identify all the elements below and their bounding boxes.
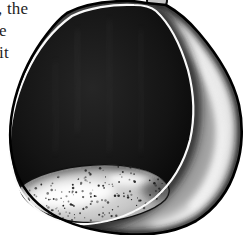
speckle-dot xyxy=(134,180,136,182)
speckle-dot xyxy=(69,212,71,214)
speckle-dot xyxy=(57,177,58,178)
speckle-dot xyxy=(157,178,159,180)
speckle-dot xyxy=(82,208,84,210)
speckle-dot xyxy=(29,190,31,192)
speckle-dot xyxy=(155,190,157,192)
speckle-dot xyxy=(48,199,50,201)
speckle-dot xyxy=(98,214,100,216)
speckle-dot xyxy=(109,212,110,213)
speckle-dot xyxy=(69,191,71,193)
speckle-dot xyxy=(84,179,86,181)
speckle-dot xyxy=(50,189,53,192)
speckle-dot xyxy=(114,195,117,198)
speckle-dot xyxy=(65,211,66,212)
speckle-dot xyxy=(52,182,54,184)
speckle-dot xyxy=(149,179,151,181)
speckle-dot xyxy=(35,187,37,189)
speckle-dot xyxy=(75,191,77,193)
speckle-dot xyxy=(62,205,64,207)
speckle-dot xyxy=(110,215,112,217)
speckle-dot xyxy=(112,209,113,210)
speckle-dot xyxy=(130,172,132,174)
speckle-dot xyxy=(116,193,117,194)
cavity-stroke xyxy=(108,20,111,152)
speckle-dot xyxy=(129,190,131,192)
speckle-dot xyxy=(64,208,65,209)
speckle-dot xyxy=(107,201,109,203)
speckle-dot xyxy=(71,219,73,221)
speckle-dot xyxy=(85,169,87,171)
speckle-dot xyxy=(129,179,131,181)
speckle-dot xyxy=(90,196,92,198)
speckle-dot xyxy=(103,187,105,189)
speckle-dot xyxy=(112,183,114,185)
speckle-dot xyxy=(153,182,155,184)
speckle-dot xyxy=(104,214,105,215)
speckle-dot xyxy=(36,196,38,198)
speckle-dot xyxy=(47,206,50,209)
speckle-dot xyxy=(50,199,51,200)
speckle-dot xyxy=(158,187,160,189)
cavity-stroke xyxy=(140,30,143,152)
speckle-dot xyxy=(50,185,52,187)
speckle-dot xyxy=(127,196,129,198)
speckle-dot xyxy=(85,206,87,208)
speckle-dot xyxy=(56,207,57,208)
speckle-dot xyxy=(80,184,82,186)
speckle-dot xyxy=(90,203,92,205)
speckle-dot xyxy=(82,196,84,198)
speckle-dot xyxy=(67,215,68,216)
speckle-dot xyxy=(122,171,124,173)
speckle-dot xyxy=(102,185,104,187)
cavity-stroke xyxy=(76,30,79,132)
speckle-dot xyxy=(136,205,137,206)
speckle-dot xyxy=(59,213,61,215)
speckle-dot xyxy=(130,194,132,196)
speckle-dot xyxy=(71,192,72,193)
speckle-dot xyxy=(85,176,87,178)
speckle-dot xyxy=(73,205,75,207)
speckle-dot xyxy=(99,167,101,169)
speckle-dot xyxy=(90,219,92,221)
speckle-dot xyxy=(101,199,103,201)
speckle-dot xyxy=(161,183,162,184)
speckle-dot xyxy=(81,190,83,192)
speckle-dot xyxy=(55,208,56,209)
speckle-dot xyxy=(72,184,74,186)
speckle-dot xyxy=(90,200,92,202)
speckle-dot xyxy=(131,199,132,200)
speckle-dot xyxy=(46,205,47,206)
speckle-dot xyxy=(112,186,114,188)
speckle-dot xyxy=(102,212,104,214)
speckle-dot xyxy=(89,182,91,184)
speckle-dot xyxy=(72,187,75,190)
speckle-dot xyxy=(104,199,106,201)
speckle-dot xyxy=(94,195,96,197)
speckle-dot xyxy=(102,207,103,208)
speckle-dot xyxy=(65,195,67,197)
speckle-dot xyxy=(46,192,49,195)
speckle-dot xyxy=(86,181,87,182)
speckle-dot xyxy=(120,174,121,175)
speckle-dot xyxy=(68,201,70,203)
speckle-dot xyxy=(121,176,122,177)
speckle-dot xyxy=(89,192,92,195)
speckle-dot xyxy=(137,197,138,198)
speckle-dot xyxy=(58,210,59,211)
speckle-dot xyxy=(117,194,120,197)
speckle-dot xyxy=(84,178,85,179)
speckle-dot xyxy=(133,173,135,175)
speckle-dot xyxy=(74,214,75,215)
speckle-dot xyxy=(32,208,34,210)
speckle-dot xyxy=(155,184,157,186)
speckle-dot xyxy=(123,195,125,197)
speckle-dot xyxy=(123,193,124,194)
speckle-dot xyxy=(117,206,119,208)
speckle-dot xyxy=(40,184,42,186)
speckle-dot xyxy=(108,184,109,185)
speckle-dot xyxy=(63,201,64,202)
speckle-dot xyxy=(96,200,99,203)
speckle-dot xyxy=(74,217,75,218)
speckle-dot xyxy=(98,185,100,187)
speckle-dot xyxy=(61,191,63,193)
